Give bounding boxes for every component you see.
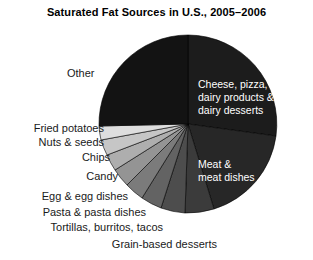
slice-other[interactable] (99, 35, 188, 126)
label-grain-based-desserts: Grain-based desserts (0, 238, 217, 250)
label-tortillas-burritos-tacos: Tortillas, burritos, tacos (0, 221, 163, 233)
label-fried-potatoes: Fried potatoes (0, 122, 104, 134)
label-egg-and-egg-dishes: Egg & egg dishes (0, 190, 128, 202)
label-other: Other (67, 67, 95, 79)
label-pasta-and-pasta-dishes: Pasta & pasta dishes (0, 206, 146, 218)
label-candy: Candy (0, 170, 118, 182)
inside-label-meat-line1: Meat & (198, 158, 255, 171)
label-nuts-and-seeds: Nuts & seeds (0, 136, 104, 148)
inside-label-meat-line2: meat dishes (198, 171, 255, 184)
inside-label-cheese-line3: dairy desserts (198, 104, 274, 117)
inside-label-cheese-pizza-dairy: Cheese, pizza, dairy products & dairy de… (198, 78, 274, 117)
pie-chart-figure: Saturated Fat Sources in U.S., 2005–2006 (0, 0, 313, 260)
inside-label-meat-and-meat-dishes: Meat & meat dishes (198, 158, 255, 184)
inside-label-cheese-line2: dairy products & (198, 91, 274, 104)
inside-label-cheese-line1: Cheese, pizza, (198, 78, 274, 91)
pie-slices (99, 35, 277, 213)
label-chips: Chips (0, 151, 110, 163)
